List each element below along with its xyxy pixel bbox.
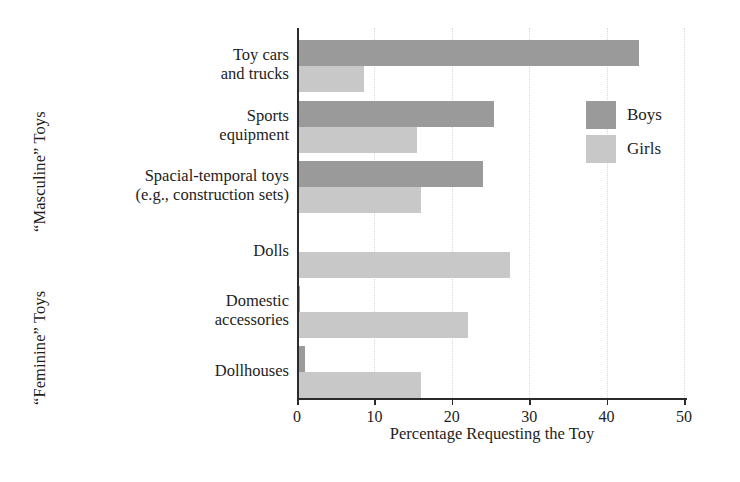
gridline (607, 28, 609, 398)
category-label-line: Sports (0, 106, 289, 125)
category-label: Toy carsand trucks (0, 45, 297, 83)
bar-girls (297, 312, 468, 338)
category-label-line: Dolls (0, 241, 289, 260)
category-label-line: and trucks (0, 64, 289, 83)
bar-girls (297, 372, 421, 398)
gridline (374, 28, 376, 398)
category-label: Domesticaccessories (0, 291, 297, 329)
x-axis-line (297, 398, 687, 400)
plot-area: 01020304050 (297, 28, 686, 398)
bar-girls (297, 66, 364, 92)
category-label: Dollhouses (0, 361, 297, 380)
category-label: Spacial-temporal toys(e.g., construction… (0, 166, 297, 204)
x-axis-tick (297, 398, 299, 405)
category-label-line: Toy cars (0, 45, 289, 64)
legend: Boys Girls (586, 98, 716, 166)
category-label-column: Toy carsand trucksSportsequipmentSpacial… (0, 0, 297, 482)
bar-boys (297, 40, 639, 66)
bar-boys (297, 101, 494, 127)
gridline (684, 28, 686, 398)
legend-item-boys: Boys (586, 98, 716, 132)
legend-swatch-boys (586, 101, 616, 129)
legend-swatch-girls (586, 135, 616, 163)
bar-boys (297, 161, 483, 187)
legend-label-girls: Girls (627, 139, 661, 159)
category-label-line: Spacial-temporal toys (0, 166, 289, 185)
bar-girls (297, 127, 417, 153)
legend-label-boys: Boys (627, 105, 662, 125)
bar-chart-figure: “Masculine” Toys “Feminine” Toys Toy car… (0, 0, 740, 482)
y-axis-line (297, 28, 299, 398)
gridline (452, 28, 454, 398)
category-label-line: equipment (0, 125, 289, 144)
category-label: Dolls (0, 241, 297, 260)
category-label: Sportsequipment (0, 106, 297, 144)
gridline (529, 28, 531, 398)
category-label-line: Dollhouses (0, 361, 289, 380)
category-label-line: accessories (0, 310, 289, 329)
x-axis-tick (684, 398, 686, 405)
x-axis-title: Percentage Requesting the Toy (297, 424, 687, 444)
legend-item-girls: Girls (586, 132, 716, 166)
x-axis-tick (452, 398, 454, 405)
x-axis-tick (607, 398, 609, 405)
bar-girls (297, 187, 421, 213)
x-axis-tick (529, 398, 531, 405)
bar-girls (297, 252, 510, 278)
x-axis-tick (374, 398, 376, 405)
category-label-line: (e.g., construction sets) (0, 185, 289, 204)
category-label-line: Domestic (0, 291, 289, 310)
